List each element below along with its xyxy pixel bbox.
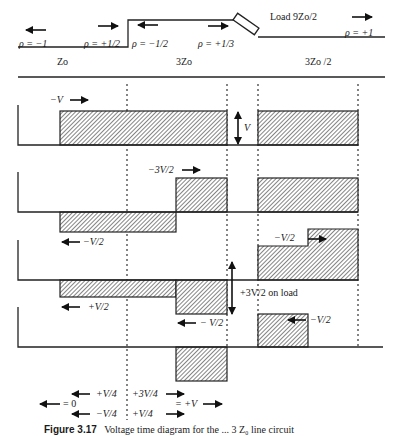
summary-bottom-left: −V/4 xyxy=(96,409,117,419)
figure-caption: Figure 3.17 Voltage time diagram for the… xyxy=(44,424,294,435)
summary-bottom-right: +V/4 xyxy=(132,409,153,419)
reflection-arrows xyxy=(26,17,372,30)
panel-3 xyxy=(18,229,358,323)
rho-junction-right-label: ρ = −1/2 xyxy=(132,39,168,49)
p2-wave-left-label: −V/2 xyxy=(83,237,104,247)
p1-step-label: V xyxy=(244,123,250,133)
figure-number: Figure 3.17 xyxy=(44,424,97,435)
summary-far-right: = +V xyxy=(175,399,197,409)
p3-mid-label: − V/2 xyxy=(200,318,223,328)
load-label: Load 9Zo/2 xyxy=(270,12,317,22)
p3-right-label: −V/2 xyxy=(274,233,295,243)
rho-load-label: ρ = +1/3 xyxy=(198,39,234,49)
impedance-section2: 3Zo xyxy=(176,57,192,67)
impedance-section1: Zo xyxy=(57,57,68,67)
panel-2 xyxy=(18,170,358,242)
impedance-section3: 3Zo /2 xyxy=(305,57,331,67)
p3-load-label: +3V/2 on load xyxy=(240,288,298,298)
load-resistor-icon xyxy=(233,13,259,34)
p4-right-label: −V/2 xyxy=(310,315,331,325)
summary-top-left: +V/4 xyxy=(96,389,117,399)
p2-wave-right-label: −3V/2 xyxy=(148,165,174,175)
rho-junction-left-label: ρ = +1/2 xyxy=(84,39,120,49)
rho-source-label: ρ = −1 xyxy=(19,39,47,49)
rho-end-label: ρ = +1 xyxy=(345,28,373,38)
figure-caption-text: Voltage time diagram for the ... 3 Z₀ li… xyxy=(104,424,294,435)
summary-top-right: +3V/4 xyxy=(132,389,158,399)
panel-1 xyxy=(18,100,358,145)
p1-incident-label: −V xyxy=(50,95,63,105)
summary-far-left: = 0 xyxy=(63,399,76,409)
p3-left-label: +V/2 xyxy=(88,302,109,312)
